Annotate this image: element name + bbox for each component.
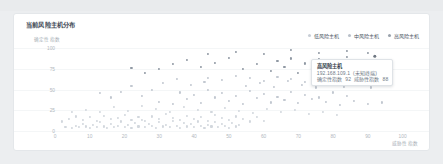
scatter-point[interactable] — [304, 94, 306, 96]
scatter-point[interactable] — [99, 111, 101, 113]
scatter-point[interactable] — [75, 125, 77, 127]
scatter-point[interactable] — [162, 125, 164, 127]
scatter-point[interactable] — [103, 125, 105, 127]
scatter-point[interactable] — [297, 102, 299, 104]
scatter-point[interactable] — [179, 119, 181, 121]
scatter-point[interactable] — [179, 127, 181, 129]
scatter-point[interactable] — [200, 66, 202, 68]
scatter-point[interactable] — [92, 124, 94, 126]
scatter-point[interactable] — [176, 78, 178, 80]
scatter-point[interactable] — [186, 115, 188, 117]
scatter-point[interactable] — [120, 91, 122, 93]
scatter-point[interactable] — [162, 82, 164, 84]
scatter-point[interactable] — [193, 126, 195, 128]
scatter-point[interactable] — [214, 62, 216, 64]
scatter-point[interactable] — [290, 91, 292, 93]
scatter-point[interactable] — [214, 96, 216, 98]
scatter-point[interactable] — [308, 113, 310, 115]
scatter-point[interactable] — [290, 58, 292, 60]
scatter-point[interactable] — [235, 51, 237, 53]
scatter-point[interactable] — [148, 123, 150, 125]
scatter-point[interactable] — [235, 125, 237, 127]
scatter-point[interactable] — [256, 63, 258, 65]
scatter-point[interactable] — [106, 127, 108, 129]
scatter-point[interactable] — [221, 79, 223, 81]
scatter-point[interactable] — [127, 110, 129, 112]
scatter-point[interactable] — [318, 96, 320, 98]
highlighted-scatter-point[interactable] — [373, 54, 376, 57]
scatter-point[interactable] — [381, 101, 383, 103]
scatter-point[interactable] — [127, 124, 129, 126]
scatter-point[interactable] — [269, 70, 271, 72]
scatter-point[interactable] — [315, 87, 317, 89]
scatter-point[interactable] — [186, 59, 188, 61]
scatter-point[interactable] — [304, 81, 306, 83]
scatter-point[interactable] — [273, 86, 275, 88]
scatter-point[interactable] — [96, 120, 98, 122]
scatter-point[interactable] — [235, 95, 237, 97]
scatter-point[interactable] — [172, 120, 174, 122]
scatter-point[interactable] — [228, 57, 230, 59]
scatter-point[interactable] — [290, 49, 292, 51]
scatter-point[interactable] — [169, 111, 171, 113]
scatter-point[interactable] — [68, 118, 70, 120]
scatter-point[interactable] — [207, 124, 209, 126]
scatter-point[interactable] — [332, 92, 334, 94]
scatter-point[interactable] — [78, 126, 80, 128]
scatter-point[interactable] — [165, 113, 167, 115]
scatter-point[interactable] — [249, 77, 251, 79]
scatter-point[interactable] — [256, 97, 258, 99]
scatter-point[interactable] — [193, 94, 195, 96]
scatter-point[interactable] — [304, 63, 306, 65]
scatter-point[interactable] — [120, 121, 122, 123]
scatter-point[interactable] — [263, 120, 265, 122]
scatter-point[interactable] — [221, 92, 223, 94]
scatter-point[interactable] — [207, 120, 209, 122]
scatter-point[interactable] — [276, 60, 278, 62]
scatter-point[interactable] — [186, 98, 188, 100]
scatter-point[interactable] — [176, 125, 178, 127]
scatter-point[interactable] — [353, 100, 355, 102]
scatter-point[interactable] — [231, 122, 233, 124]
scatter-point[interactable] — [242, 68, 244, 70]
scatter-point[interactable] — [256, 116, 258, 118]
scatter-point[interactable] — [336, 114, 338, 116]
scatter-point[interactable] — [238, 110, 240, 112]
scatter-point[interactable] — [183, 106, 185, 108]
scatter-point[interactable] — [259, 82, 261, 84]
scatter-point[interactable] — [158, 118, 160, 120]
scatter-point[interactable] — [214, 114, 216, 116]
scatter-point[interactable] — [249, 90, 251, 92]
scatter-point[interactable] — [221, 117, 223, 119]
legend-item[interactable]: 中风险主机 — [348, 32, 379, 39]
scatter-point[interactable] — [290, 78, 292, 80]
scatter-point[interactable] — [141, 95, 143, 97]
scatter-point[interactable] — [172, 117, 174, 119]
scatter-point[interactable] — [61, 121, 63, 123]
scatter-point[interactable] — [141, 119, 143, 121]
scatter-point[interactable] — [89, 116, 91, 118]
scatter-point[interactable] — [242, 103, 244, 105]
scatter-point[interactable] — [280, 111, 282, 113]
scatter-point[interactable] — [339, 104, 341, 106]
scatter-point[interactable] — [144, 126, 146, 128]
scatter-point[interactable] — [217, 126, 219, 128]
scatter-point[interactable] — [144, 72, 146, 74]
scatter-point[interactable] — [196, 121, 198, 123]
scatter-point[interactable] — [346, 95, 348, 97]
scatter-point[interactable] — [346, 56, 348, 58]
scatter-point[interactable] — [82, 123, 84, 125]
scatter-point[interactable] — [207, 77, 209, 79]
scatter-point[interactable] — [252, 112, 254, 114]
scatter-point[interactable] — [123, 126, 125, 128]
scatter-point[interactable] — [151, 116, 153, 118]
scatter-point[interactable] — [158, 68, 160, 70]
legend-item[interactable]: 高风险主机 — [388, 32, 419, 39]
scatter-point[interactable] — [200, 102, 202, 104]
scatter-point[interactable] — [75, 116, 77, 118]
scatter-point[interactable] — [301, 84, 303, 86]
scatter-point[interactable] — [123, 114, 125, 116]
scatter-point[interactable] — [318, 52, 320, 54]
scatter-point[interactable] — [263, 53, 265, 55]
scatter-point[interactable] — [130, 119, 132, 121]
